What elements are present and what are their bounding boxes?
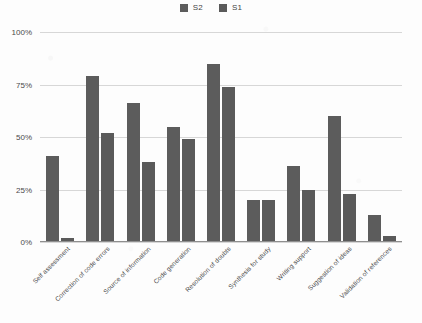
chart-legend: S2S1: [0, 3, 422, 12]
bar-group: [287, 32, 315, 242]
y-tick-label: 100%: [12, 28, 32, 37]
y-tick-label: 0%: [20, 238, 32, 247]
bar-s2[interactable]: [368, 215, 381, 242]
x-axis-line: [40, 241, 402, 242]
bars-layer: [40, 32, 402, 242]
y-tick-label: 50%: [16, 133, 32, 142]
bar-s1[interactable]: [343, 194, 356, 242]
legend-item-label: S1: [232, 3, 242, 12]
bar-s2[interactable]: [127, 103, 140, 242]
bar-s1[interactable]: [222, 87, 235, 242]
y-tick-label: 75%: [16, 80, 32, 89]
bar-group: [207, 32, 235, 242]
bar-s2[interactable]: [86, 76, 99, 242]
bar-group: [328, 32, 356, 242]
bar-s1[interactable]: [101, 133, 114, 242]
x-tick-label: Suggestion of ideas: [306, 245, 353, 292]
bar-s1[interactable]: [142, 162, 155, 242]
bar-group: [247, 32, 275, 242]
bar-group: [368, 32, 396, 242]
bar-s1[interactable]: [182, 139, 195, 242]
bar-s2[interactable]: [328, 116, 341, 242]
x-tick-label: Source of information: [101, 245, 151, 295]
legend-item-label: S2: [193, 3, 203, 12]
bar-s2[interactable]: [167, 127, 180, 243]
square-swatch-icon: [180, 4, 188, 12]
y-axis: 0%25%50%75%100%: [0, 32, 36, 242]
bar-group: [86, 32, 114, 242]
bar-group: [127, 32, 155, 242]
bar-s2[interactable]: [247, 200, 260, 242]
x-tick-label: Synthesis for study: [227, 245, 272, 290]
x-tick-label: Writing support: [276, 245, 313, 282]
legend-item-s1[interactable]: S1: [219, 3, 242, 12]
bar-s2[interactable]: [46, 156, 59, 242]
square-swatch-icon: [219, 4, 227, 12]
x-axis: Self assessmentCorrection of code errors…: [40, 243, 402, 323]
y-tick-label: 25%: [16, 185, 32, 194]
legend-item-s2[interactable]: S2: [180, 3, 203, 12]
bar-chart: S2S1 0%25%50%75%100% Self assessmentCorr…: [0, 0, 422, 323]
x-tick-label: Self assessment: [31, 245, 71, 285]
bar-group: [46, 32, 74, 242]
bar-s2[interactable]: [287, 166, 300, 242]
bar-group: [167, 32, 195, 242]
bar-s2[interactable]: [207, 64, 220, 243]
bar-s1[interactable]: [302, 190, 315, 243]
x-tick-label: Resolution of doubts: [184, 245, 232, 293]
x-tick-label: Code generation: [152, 245, 192, 285]
bar-s1[interactable]: [262, 200, 275, 242]
plot-area: [40, 32, 402, 242]
